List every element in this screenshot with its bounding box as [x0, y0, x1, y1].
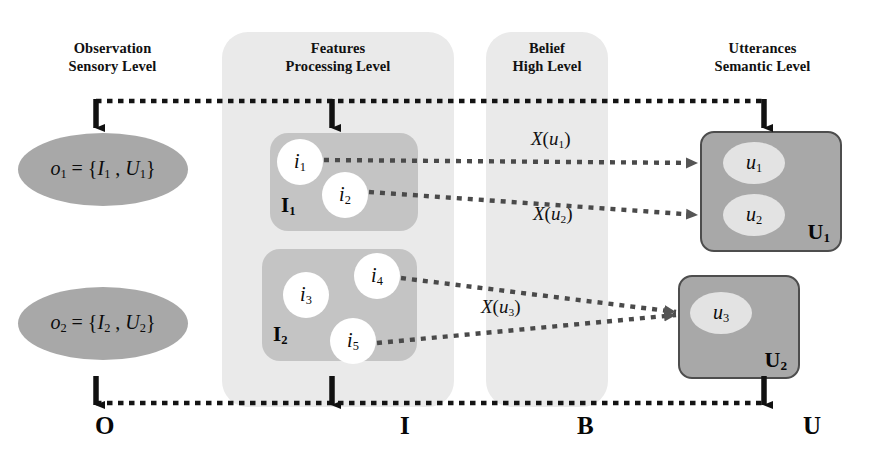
bottom-label-features: I	[400, 412, 410, 440]
feature-i1[interactable]: i1	[277, 139, 323, 185]
utterance-group-U2-letter: U	[765, 347, 781, 372]
feature-i3-label: i3	[300, 283, 312, 308]
mapping-x-u1-fn: X	[531, 128, 543, 149]
utterance-group-U2-subscript: 2	[780, 358, 787, 373]
feature-i2-label: i2	[339, 183, 351, 208]
column-header-utterances: Utterances Semantic Level	[660, 40, 865, 75]
mapping-x-u2-label: X(u2)	[533, 203, 572, 225]
feature-group-I2-label: I2	[273, 322, 287, 348]
bottom-label-utterances: U	[803, 412, 821, 440]
feature-group-I2-letter: I	[273, 322, 281, 346]
feature-i5[interactable]: i5	[330, 318, 376, 364]
utterance-u3[interactable]: u3	[690, 292, 752, 334]
utterance-u3-label: u3	[713, 301, 729, 326]
column-header-observation-line1: Observation	[74, 40, 152, 56]
column-header-belief-line2: High Level	[482, 58, 612, 76]
diagram-canvas: Observation Sensory Level Features Proce…	[0, 0, 869, 468]
mapping-x-u3-label: X(u3)	[481, 296, 520, 318]
column-header-belief: Belief High Level	[482, 40, 612, 75]
utterance-u1[interactable]: u1	[723, 142, 785, 184]
feature-i1-label: i1	[294, 150, 306, 175]
utterance-u2[interactable]: u2	[723, 194, 785, 236]
mapping-x-u2-fn: X	[533, 203, 545, 224]
feature-i4[interactable]: i4	[354, 253, 400, 299]
observation-2-label: o2 = {I2 , U2}	[50, 311, 155, 336]
utterance-group-U1-letter: U	[808, 219, 824, 244]
column-header-utterances-line1: Utterances	[729, 40, 797, 56]
bottom-label-observation: O	[95, 412, 114, 440]
utterance-group-U1-subscript: 1	[823, 230, 830, 245]
utterance-u2-label: u2	[746, 203, 762, 228]
feature-group-I1-label: I1	[281, 193, 295, 219]
column-header-observation: Observation Sensory Level	[5, 40, 220, 75]
utterance-group-U2-label: U2	[765, 347, 787, 374]
column-header-belief-line1: Belief	[529, 40, 565, 56]
observation-1-label: o1 = {I1 , U1}	[50, 157, 155, 182]
utterance-u1-label: u1	[746, 151, 762, 176]
column-header-observation-line2: Sensory Level	[5, 58, 220, 76]
feature-group-I2-subscript: 2	[281, 333, 287, 347]
feature-group-I1-letter: I	[281, 193, 289, 217]
column-header-features-line2: Processing Level	[222, 58, 454, 76]
mapping-x-u1-label: X(u1)	[531, 128, 570, 150]
bottom-label-belief: B	[577, 412, 594, 440]
feature-i4-label: i4	[371, 264, 383, 289]
column-header-features-line1: Features	[311, 40, 366, 56]
column-header-features: Features Processing Level	[222, 40, 454, 75]
feature-i3[interactable]: i3	[283, 272, 329, 318]
feature-group-I1-subscript: 1	[289, 204, 295, 218]
column-header-utterances-line2: Semantic Level	[660, 58, 865, 76]
mapping-x-u3-fn: X	[481, 296, 493, 317]
feature-i5-label: i5	[347, 329, 359, 354]
feature-i2[interactable]: i2	[322, 172, 368, 218]
observation-2[interactable]: o2 = {I2 , U2}	[18, 287, 188, 360]
observation-1[interactable]: o1 = {I1 , U1}	[18, 133, 188, 206]
utterance-group-U1-label: U1	[808, 219, 830, 246]
